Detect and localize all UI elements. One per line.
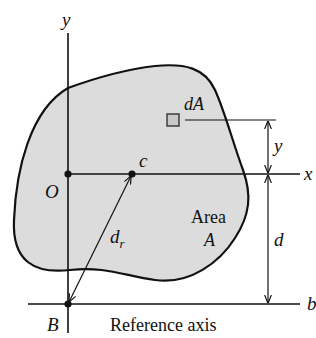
area-label-line1: Area [191, 207, 226, 227]
origin-point [64, 170, 71, 177]
origin-label: O [45, 181, 59, 202]
y-axis-label: y [60, 9, 71, 30]
centroid-point [128, 170, 135, 177]
area-label-line2: A [203, 230, 216, 250]
reference-point-label: B [47, 314, 59, 335]
y-dimension-label: y [272, 135, 283, 156]
reference-point-B [64, 300, 71, 307]
x-axis-label: x [303, 163, 313, 184]
centroid-label: c [139, 150, 148, 171]
b-axis-label: b [307, 293, 316, 314]
reference-axis-label: Reference axis [110, 315, 216, 335]
dA-label: dA [184, 94, 205, 114]
parallel-axis-diagram: y x b O c B dA y d dr Area A Reference a… [0, 0, 316, 338]
area-element-dA [167, 114, 179, 126]
d-dimension-label: d [274, 229, 284, 250]
